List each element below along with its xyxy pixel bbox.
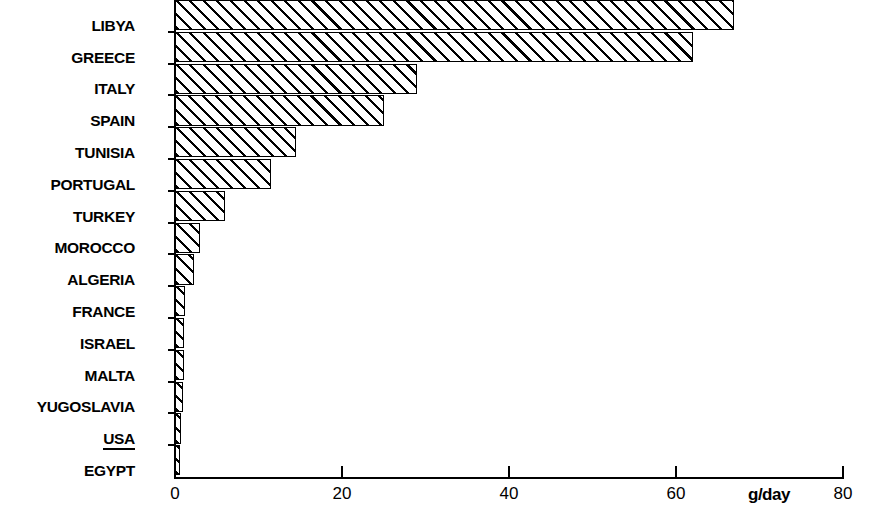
y-axis-tick [168, 253, 175, 255]
x-axis-tick [174, 466, 176, 478]
category-label-text: MALTA [85, 367, 135, 384]
y-axis-tick [168, 222, 175, 224]
category-label-usa: USA [0, 431, 135, 447]
bar-fill [175, 127, 296, 157]
category-label-text: SPAIN [90, 112, 135, 129]
y-axis-tick [168, 190, 175, 192]
category-label-israel: ISRAEL [0, 336, 135, 352]
category-label-france: FRANCE [0, 304, 135, 320]
bar-tunisia [175, 127, 296, 157]
bar-fill [175, 32, 693, 62]
bar-morocco [175, 223, 200, 253]
y-axis-tick [168, 444, 175, 446]
y-axis-tick [168, 126, 175, 128]
x-axis-tick [675, 466, 677, 478]
bar-greece [175, 32, 693, 62]
bar-turkey [175, 191, 225, 221]
category-label-text: ITALY [94, 80, 135, 97]
category-label-text: FRANCE [72, 303, 135, 320]
y-axis-tick [168, 31, 175, 33]
category-label-text: EGYPT [84, 462, 135, 479]
category-label-yugoslavia: YUGOSLAVIA [0, 399, 135, 415]
x-axis-tick [842, 466, 844, 478]
y-axis-tick [168, 412, 175, 414]
category-label-algeria: ALGERIA [0, 272, 135, 288]
y-axis-tick [168, 349, 175, 351]
category-label-text: MOROCCO [54, 239, 135, 256]
bar-fill [175, 350, 184, 380]
bar-algeria [175, 254, 194, 284]
category-label-text: LIBYA [91, 17, 135, 34]
category-label-tunisia: TUNISIA [0, 145, 135, 161]
category-label-spain: SPAIN [0, 113, 135, 129]
bar-fill [175, 254, 194, 284]
category-label-italy: ITALY [0, 81, 135, 97]
y-axis-tick [168, 381, 175, 383]
bar-fill [175, 318, 184, 348]
bar-yugoslavia [175, 382, 183, 412]
category-label-text: ALGERIA [67, 271, 135, 288]
category-label-greece: GREECE [0, 50, 135, 66]
bar-fill [175, 0, 734, 30]
bar-fill [175, 95, 384, 125]
bar-fill [175, 64, 417, 94]
bar-fill [175, 223, 200, 253]
plot-area [175, 0, 843, 478]
category-label-text: ISRAEL [80, 335, 135, 352]
y-axis-line [174, 0, 176, 479]
bar-malta [175, 350, 184, 380]
x-axis-unit-label: g/day [748, 485, 790, 505]
bar-italy [175, 64, 417, 94]
category-label-malta: MALTA [0, 368, 135, 384]
y-axis-tick [168, 285, 175, 287]
category-label-libya: LIBYA [0, 18, 135, 34]
bar-fill [175, 159, 271, 189]
category-label-text: YUGOSLAVIA [37, 398, 135, 415]
bar-chart: LIBYAGREECEITALYSPAINTUNISIAPORTUGALTURK… [0, 0, 869, 522]
x-axis-tick [341, 466, 343, 478]
x-axis-tick-label: 0 [145, 484, 205, 504]
y-axis-tick [168, 158, 175, 160]
bar-spain [175, 95, 384, 125]
y-axis-tick [168, 63, 175, 65]
bar-fill [175, 286, 185, 316]
category-label-text: USA [103, 430, 135, 450]
category-label-turkey: TURKEY [0, 209, 135, 225]
bar-portugal [175, 159, 271, 189]
category-label-text: TURKEY [73, 208, 135, 225]
x-axis-tick-label: 40 [479, 484, 539, 504]
y-axis-tick [168, 94, 175, 96]
category-label-text: PORTUGAL [50, 176, 135, 193]
x-axis-tick-label: 80 [813, 484, 869, 504]
category-label-morocco: MOROCCO [0, 240, 135, 256]
category-label-egypt: EGYPT [0, 463, 135, 479]
bar-fill [175, 191, 225, 221]
bar-france [175, 286, 185, 316]
category-label-portugal: PORTUGAL [0, 177, 135, 193]
bar-israel [175, 318, 184, 348]
category-labels: LIBYAGREECEITALYSPAINTUNISIAPORTUGALTURK… [0, 0, 140, 522]
bar-fill [175, 382, 183, 412]
bar-libya [175, 0, 734, 30]
category-label-text: GREECE [71, 49, 135, 66]
y-axis-tick [168, 317, 175, 319]
x-axis-tick-label: 20 [312, 484, 372, 504]
x-axis-tick-label: 60 [646, 484, 706, 504]
x-axis-tick [508, 466, 510, 478]
category-label-text: TUNISIA [75, 144, 135, 161]
